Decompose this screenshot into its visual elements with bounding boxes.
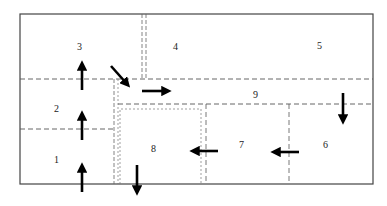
- flow-diagram: 3 4 5 9 2 1 8 7 6: [0, 0, 387, 206]
- zone-label-7: 7: [239, 139, 244, 150]
- zone-label-2: 2: [54, 103, 59, 114]
- zone-8-boundary: [120, 109, 201, 184]
- zone-label-9: 9: [253, 89, 258, 100]
- arrow-down-right-icon: [111, 66, 127, 84]
- zone-label-8: 8: [151, 143, 156, 154]
- zone-label-5: 5: [317, 40, 322, 51]
- zone-label-6: 6: [323, 139, 328, 150]
- zone-label-1: 1: [54, 154, 59, 165]
- zone-label-3: 3: [77, 41, 82, 52]
- zone-label-4: 4: [173, 41, 178, 52]
